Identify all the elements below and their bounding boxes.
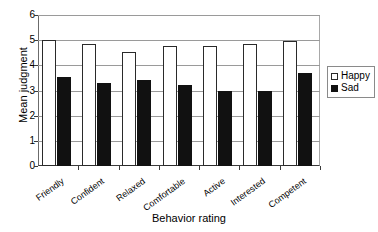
- y-tick-label: 0: [5, 161, 35, 171]
- bar-happy-friendly: [42, 40, 56, 166]
- x-tick-mark: [78, 166, 79, 170]
- bar-sad-relaxed: [137, 80, 151, 166]
- legend-item: Happy: [331, 70, 370, 82]
- bar-happy-active: [203, 46, 217, 166]
- y-tick-mark: [34, 166, 38, 167]
- y-tick-label: 4: [5, 60, 35, 70]
- filled-square-icon: [331, 85, 338, 92]
- y-tick-label: 2: [5, 111, 35, 121]
- bar-sad-confident: [97, 83, 111, 166]
- legend-item-label: Sad: [341, 83, 359, 93]
- legend-item: Sad: [331, 82, 370, 94]
- y-tick-label: 5: [5, 35, 35, 45]
- x-tick-mark: [239, 166, 240, 170]
- y-tick-label: 6: [5, 10, 35, 20]
- bar-happy-interested: [243, 44, 257, 166]
- bars-layer: [38, 15, 320, 166]
- x-tick-mark: [119, 166, 120, 170]
- x-tick-mark: [320, 166, 321, 170]
- legend: HappySad: [327, 66, 375, 98]
- y-tick-label: 1: [5, 136, 35, 146]
- x-tick-mark: [159, 166, 160, 170]
- bar-chart: Mean judgment 0123456 FriendlyConfidentR…: [0, 0, 378, 232]
- bar-sad-interested: [258, 91, 272, 167]
- x-tick-mark: [199, 166, 200, 170]
- bar-sad-active: [218, 91, 232, 167]
- bar-happy-relaxed: [122, 52, 136, 167]
- x-axis-title: Behavior rating: [0, 212, 378, 224]
- bar-happy-comfortable: [163, 46, 177, 166]
- bar-sad-friendly: [57, 77, 71, 166]
- bar-sad-competent: [298, 73, 312, 166]
- x-tick-mark: [280, 166, 281, 170]
- bar-happy-confident: [82, 44, 96, 166]
- legend-item-label: Happy: [341, 71, 370, 81]
- bar-happy-competent: [283, 41, 297, 166]
- hollow-square-icon: [331, 73, 338, 80]
- y-tick-label: 3: [5, 86, 35, 96]
- bar-sad-comfortable: [178, 85, 192, 166]
